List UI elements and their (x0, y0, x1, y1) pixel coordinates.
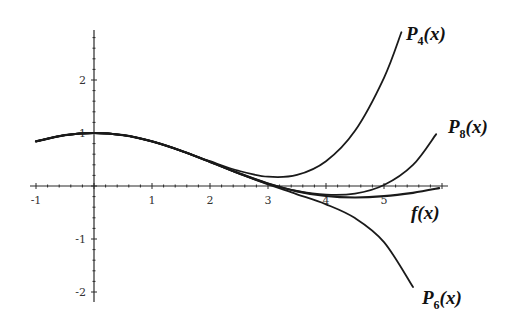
curve-p6x (36, 133, 413, 287)
y-tick-label: -2 (75, 286, 86, 299)
label-p4: P4(x) (405, 23, 446, 48)
y-tick-label: 2 (79, 74, 86, 87)
label-p6: P6(x) (421, 287, 462, 312)
taylor-polynomial-chart: -112345 21-1-2 P4(x) P8(x) f(x) P6(x) (0, 0, 522, 327)
x-tick-label: 1 (149, 194, 156, 207)
label-f: f(x) (411, 202, 439, 224)
x-tick-label: 3 (265, 194, 272, 207)
axes: -112345 21-1-2 (30, 30, 448, 302)
label-p8: P8(x) (447, 116, 488, 141)
series-labels: P4(x) P8(x) f(x) P6(x) (405, 23, 488, 312)
curve-p4x (36, 32, 401, 177)
y-tick-label: -1 (75, 233, 86, 246)
x-tick-label: 2 (207, 194, 214, 207)
curves (36, 32, 439, 287)
x-tick-label: -1 (31, 194, 42, 207)
